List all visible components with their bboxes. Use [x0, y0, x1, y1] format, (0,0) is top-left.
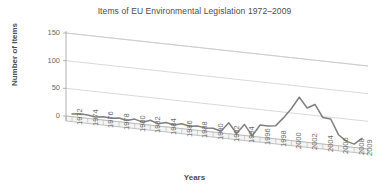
y-axis-line — [63, 31, 66, 121]
gridlines — [66, 33, 368, 149]
y-axis-tick-label: 0 — [34, 111, 60, 120]
y-axis-tick-label: 150 — [34, 28, 60, 37]
y-axis-tick-label: 100 — [34, 56, 60, 65]
y-axis-tick-label: 50 — [34, 83, 60, 92]
chart-container: Items of EU Environmental Legislation 19… — [0, 0, 389, 194]
plot-walls — [66, 33, 368, 66]
